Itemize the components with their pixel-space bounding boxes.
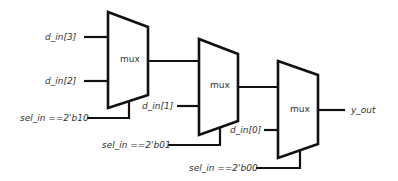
diagram-canvas: mux d_in[3] d_in[2] sel_in ==2'b10 mux d… [0,0,398,181]
mux-cascade-diagram: mux d_in[3] d_in[2] sel_in ==2'b10 mux d… [0,0,398,181]
mux-2-label: mux [210,80,230,90]
mux-3-label: mux [290,104,310,114]
mux-1: mux [108,12,148,108]
label-y-out: y_out [350,105,376,115]
label-sel-b01: sel_in ==2'b01 [102,140,171,150]
label-d-in2: d_in[2] [45,76,77,86]
label-d-in3: d_in[3] [45,32,77,42]
label-d-in1: d_in[1] [142,101,174,111]
label-sel-b10: sel_in ==2'b10 [20,113,89,123]
label-sel-b00: sel_in ==2'b00 [189,163,258,173]
mux-1-label: mux [120,54,140,64]
mux-3: mux [278,61,318,158]
label-d-in0: d_in[0] [230,125,262,135]
mux-2: mux [199,39,238,135]
